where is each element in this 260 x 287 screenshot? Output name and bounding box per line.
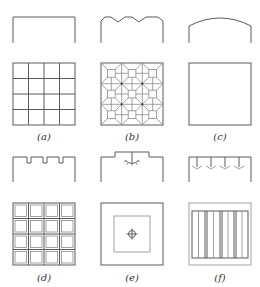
panel-f-section [189,157,251,182]
panel-e-label: (e) [112,272,152,283]
panel-b-plan [101,63,163,125]
panel-a-plan [13,63,75,125]
panel-b-section [101,17,163,43]
panel-c-section [189,18,251,43]
panel-e-section [101,152,163,182]
panel-d-plan [13,203,75,265]
panel-b-label: (b) [112,131,152,142]
panel-e-plan [101,203,163,265]
panel-f-plan [189,203,251,265]
panel-f-label: (f) [200,272,240,283]
panel-a-label: (a) [24,131,64,142]
panel-d-section [13,157,75,182]
panel-c-label: (c) [200,131,240,142]
panel-c-plan [189,63,251,125]
ceiling-types-diagram [0,0,260,287]
panel-d-label: (d) [24,272,64,283]
panel-a-section [13,17,75,43]
